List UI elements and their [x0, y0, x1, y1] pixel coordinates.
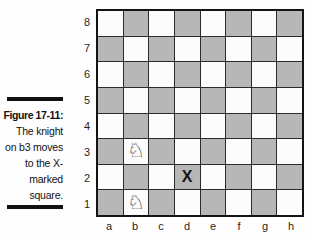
square-g2: [252, 165, 277, 190]
square-f7: [226, 37, 251, 62]
white-knight-icon: ♘: [127, 140, 145, 160]
caption-line: on b3 moves: [0, 139, 63, 155]
square-f1: [226, 190, 251, 215]
square-c3: [149, 139, 174, 164]
square-c1: [149, 190, 174, 215]
caption-bottom-rule: [7, 205, 63, 209]
square-a2: [98, 165, 123, 190]
caption-line: marked: [0, 171, 63, 187]
square-f5: [226, 88, 251, 113]
square-b4: [124, 114, 149, 139]
square-a7: [98, 37, 123, 62]
square-f2: [226, 165, 251, 190]
square-d8: [175, 11, 200, 36]
square-g6: [252, 62, 277, 87]
file-label-g: g: [252, 220, 278, 232]
target-square-mark: X: [182, 169, 193, 185]
square-g7: [252, 37, 277, 62]
square-b1: ♘: [124, 190, 149, 215]
square-g8: [252, 11, 277, 36]
square-b8: [124, 11, 149, 36]
rank-label-5: 5: [72, 87, 90, 113]
square-b2: [124, 165, 149, 190]
square-b5: [124, 88, 149, 113]
file-label-a: a: [96, 220, 122, 232]
square-h7: [277, 37, 302, 62]
file-label-b: b: [122, 220, 148, 232]
rank-label-1: 1: [72, 191, 90, 217]
square-d5: [175, 88, 200, 113]
file-labels: a b c d e f g h: [96, 220, 304, 232]
rank-labels: 8 7 6 5 4 3 2 1: [72, 9, 90, 217]
square-a5: [98, 88, 123, 113]
rank-label-8: 8: [72, 9, 90, 35]
rank-label-7: 7: [72, 35, 90, 61]
square-e8: [201, 11, 226, 36]
square-g5: [252, 88, 277, 113]
square-h1: [277, 190, 302, 215]
square-e5: [201, 88, 226, 113]
square-c2: [149, 165, 174, 190]
square-c5: [149, 88, 174, 113]
chess-board: ♘X♘: [96, 9, 304, 217]
file-label-h: h: [278, 220, 304, 232]
caption-top-rule: [7, 97, 63, 101]
square-d7: [175, 37, 200, 62]
rank-label-6: 6: [72, 61, 90, 87]
square-d2: X: [175, 165, 200, 190]
square-h5: [277, 88, 302, 113]
square-c4: [149, 114, 174, 139]
square-h2: [277, 165, 302, 190]
square-e4: [201, 114, 226, 139]
square-a6: [98, 62, 123, 87]
square-a1: [98, 190, 123, 215]
caption-line: The knight: [0, 123, 63, 139]
square-a8: [98, 11, 123, 36]
square-b7: [124, 37, 149, 62]
file-label-f: f: [226, 220, 252, 232]
square-f6: [226, 62, 251, 87]
square-c6: [149, 62, 174, 87]
file-label-e: e: [200, 220, 226, 232]
white-knight-icon: ♘: [127, 192, 145, 212]
square-c8: [149, 11, 174, 36]
square-h8: [277, 11, 302, 36]
square-b3: ♘: [124, 139, 149, 164]
square-f4: [226, 114, 251, 139]
book-figure: Figure 17-11: The knight on b3 moves to …: [0, 0, 309, 242]
square-e6: [201, 62, 226, 87]
rank-label-2: 2: [72, 165, 90, 191]
square-g3: [252, 139, 277, 164]
square-h3: [277, 139, 302, 164]
square-a4: [98, 114, 123, 139]
square-e1: [201, 190, 226, 215]
caption-text: Figure 17-11: The knight on b3 moves to …: [0, 107, 63, 203]
square-d3: [175, 139, 200, 164]
square-h6: [277, 62, 302, 87]
square-d4: [175, 114, 200, 139]
square-e3: [201, 139, 226, 164]
square-h4: [277, 114, 302, 139]
square-f8: [226, 11, 251, 36]
caption-line: square.: [0, 187, 63, 203]
square-f3: [226, 139, 251, 164]
rank-label-3: 3: [72, 139, 90, 165]
square-e2: [201, 165, 226, 190]
square-g4: [252, 114, 277, 139]
square-b6: [124, 62, 149, 87]
square-c7: [149, 37, 174, 62]
file-label-d: d: [174, 220, 200, 232]
rank-label-4: 4: [72, 113, 90, 139]
file-label-c: c: [148, 220, 174, 232]
square-a3: [98, 139, 123, 164]
square-d1: [175, 190, 200, 215]
figure-label: Figure 17-11:: [0, 107, 63, 123]
square-d6: [175, 62, 200, 87]
caption-line: to the X-: [0, 155, 63, 171]
square-e7: [201, 37, 226, 62]
square-g1: [252, 190, 277, 215]
